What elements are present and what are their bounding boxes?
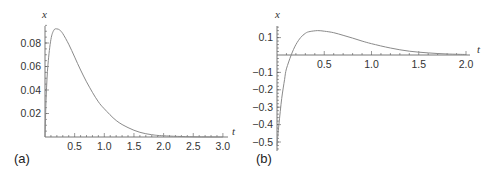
data-curve xyxy=(277,31,466,146)
x-tick-label: 1.5 xyxy=(127,140,142,152)
y-tick-label: 0.02 xyxy=(21,107,42,119)
x-tick-label: 0.5 xyxy=(67,140,82,152)
y-tick-label: −0.5 xyxy=(252,136,273,148)
x-tick-label: 0.5 xyxy=(317,58,332,70)
y-tick-label: 0.04 xyxy=(21,84,42,96)
x-tick-label: 1.5 xyxy=(411,58,426,70)
chart-panel-b: 0.51.01.52.00.1−0.1−0.2−0.3−0.4−0.5tx(b) xyxy=(252,8,481,166)
x-tick-label: 2.0 xyxy=(459,58,474,70)
x-tick-label: 2.0 xyxy=(156,140,171,152)
data-curve xyxy=(45,29,223,137)
panel-label: (a) xyxy=(14,151,30,166)
y-tick-label: 0.1 xyxy=(258,31,273,43)
y-tick-label: 0.06 xyxy=(21,60,42,72)
x-tick-label: 3.0 xyxy=(216,140,231,152)
x-axis-label: t xyxy=(477,43,481,55)
figure: 0.51.01.52.02.53.00.020.040.060.08tx(a) … xyxy=(0,0,497,186)
y-axis-label: x xyxy=(274,8,280,20)
x-tick-label: 2.5 xyxy=(186,140,201,152)
x-tick-label: 1.0 xyxy=(364,58,379,70)
y-tick-label: −0.4 xyxy=(252,118,273,130)
y-tick-label: −0.2 xyxy=(252,83,273,95)
panel-label: (b) xyxy=(256,151,272,166)
y-tick-label: −0.1 xyxy=(252,66,273,78)
y-tick-label: 0.08 xyxy=(21,37,42,49)
y-axis-label: x xyxy=(41,8,47,20)
x-tick-label: 1.0 xyxy=(97,140,112,152)
chart-panel-a: 0.51.01.52.02.53.00.020.040.060.08tx(a) xyxy=(14,8,236,166)
y-tick-label: −0.3 xyxy=(252,101,273,113)
x-axis-label: t xyxy=(232,125,236,137)
